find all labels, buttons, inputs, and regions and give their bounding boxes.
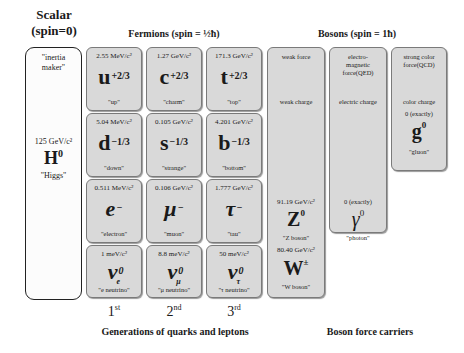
particle-electron: 0.511 MeV/c² e− "electron" (86, 179, 142, 243)
particle-up: 2.55 MeV/c² u+2/3 "up" (86, 47, 142, 111)
generation-2-label: 2nd (146, 303, 202, 320)
photon-mass: 0 (exactly) (330, 198, 386, 206)
strong-force-label: strong color force(QCD) (392, 53, 446, 69)
particle-down: 5.04 MeV/c² d−1/3 "down" (86, 113, 142, 177)
gluon-symbol: g0 (392, 120, 446, 143)
weak-force-label: weak force (268, 53, 324, 61)
scalar-header: Scalar (spin=0) (14, 7, 94, 39)
particle-symbol: d−1/3 (87, 131, 141, 155)
scalar-header-line2: (spin=0) (14, 23, 94, 39)
generation-3-label: 3rd (206, 303, 262, 320)
weak-force-box: weak force weak charge 91.19 GeV/c² Z0 "… (267, 47, 325, 298)
particle-strange: 0.105 GeV/c² s−1/3 "strange" (146, 113, 202, 177)
color-charge-label: color charge (392, 98, 446, 106)
electric-charge-label: electric charge (330, 98, 386, 106)
particle-tau: 1.777 GeV/c² τ− "tau" (206, 179, 262, 243)
higgs-symbol: H0 (26, 148, 81, 169)
particle-electron-neutrino: 1 meV/c² ν0e "e neutrino" (86, 245, 142, 298)
particle-muon: 0.106 GeV/c² μ− "muon" (146, 179, 202, 243)
weak-charge-label: weak charge (268, 98, 324, 106)
gluon-mass: 0 (exactly) (392, 110, 446, 118)
particle-symbol: s−1/3 (147, 131, 201, 155)
generation-1-label: 1st (86, 303, 142, 320)
w-boson-symbol: W± (268, 257, 324, 280)
z-boson-symbol: Z0 (268, 208, 324, 231)
higgs-mass: 125 GeV/c² (26, 137, 81, 146)
particle-top: 171.3 GeV/c² t+2/3 "top" (206, 47, 262, 111)
particle-symbol: c+2/3 (147, 65, 201, 89)
strong-force-box: strong color force(QCD) color charge 0 (… (391, 47, 447, 171)
scalar-header-line1: Scalar (14, 7, 94, 23)
higgs-name: "Higgs" (26, 171, 81, 180)
higgs-nickname: "inertia maker" (34, 53, 73, 73)
bosons-header: Bosons (spin = 1ħ) (267, 28, 447, 39)
photon-symbol: γ0 (330, 208, 386, 231)
particle-symbol: τ− (207, 197, 261, 221)
bosons-footer: Boson force carriers (300, 326, 440, 337)
fermions-header: Fermions (spin = ½ħ) (86, 28, 262, 39)
higgs-box: "inertia maker" 125 GeV/c² H0 "Higgs" (25, 47, 82, 300)
w-boson-name: "W boson" (268, 283, 324, 291)
particle-symbol: μ− (147, 197, 201, 221)
particle-bottom: 4.201 GeV/c² b−1/3 "bottom" (206, 113, 262, 177)
em-force-label: electro- magnetic force(QED) (330, 53, 386, 77)
particle-muon-neutrino: 8.8 meV/c² ν0μ "μ neutrino" (146, 245, 202, 298)
particle-symbol: t+2/3 (207, 65, 261, 89)
particle-symbol: e− (87, 197, 141, 221)
particle-symbol: b−1/3 (207, 131, 261, 155)
gluon-name: "gluon" (392, 148, 446, 156)
em-force-box: electro- magnetic force(QED) electric ch… (329, 47, 387, 233)
particle-charm: 1.27 GeV/c² c+2/3 "charm" (146, 47, 202, 111)
photon-name: "photon" (330, 234, 386, 242)
z-mass: 91.19 GeV/c² (268, 198, 324, 206)
w-mass: 80.40 GeV/c² (268, 246, 324, 254)
particle-symbol: u+2/3 (87, 65, 141, 89)
particle-tau-neutrino: 50 meV/c² ν0τ "τ neutrino" (206, 245, 262, 298)
fermions-footer: Generations of quarks and leptons (80, 326, 270, 337)
z-boson-name: "Z boson" (268, 234, 324, 242)
